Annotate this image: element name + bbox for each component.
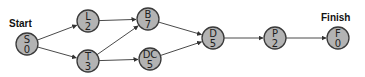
- node-l: L2: [77, 10, 99, 32]
- start-label: Start: [9, 18, 32, 29]
- edge-t-dc: [99, 59, 138, 60]
- node-duration: 0: [335, 38, 341, 49]
- node-duration: 3: [85, 61, 91, 72]
- node-f: F0: [327, 27, 349, 49]
- nodes-group: S0L2T3B7DC5D5P2F0: [16, 8, 349, 72]
- edge-t-b: [97, 26, 138, 55]
- finish-label: Finish: [321, 12, 350, 23]
- edge-s-l: [37, 25, 77, 40]
- diagram-svg: S0L2T3B7DC5D5P2F0 Start Finish: [0, 0, 365, 77]
- node-dc: DC5: [139, 48, 161, 70]
- network-diagram: S0L2T3B7DC5D5P2F0 Start Finish: [0, 0, 365, 77]
- edge-dc-d: [160, 42, 201, 56]
- node-duration: 2: [272, 38, 278, 49]
- node-d: D5: [202, 27, 224, 49]
- node-duration: 2: [85, 21, 91, 32]
- node-duration: 5: [147, 59, 153, 70]
- edge-l-b: [99, 19, 136, 20]
- node-b: B7: [137, 8, 159, 30]
- node-duration: 7: [145, 19, 151, 30]
- node-s: S0: [16, 33, 38, 55]
- node-t: T3: [77, 50, 99, 72]
- edge-s-t: [38, 47, 77, 58]
- edge-b-d: [159, 22, 202, 34]
- node-duration: 5: [210, 38, 216, 49]
- node-p: P2: [264, 27, 286, 49]
- node-duration: 0: [24, 44, 30, 55]
